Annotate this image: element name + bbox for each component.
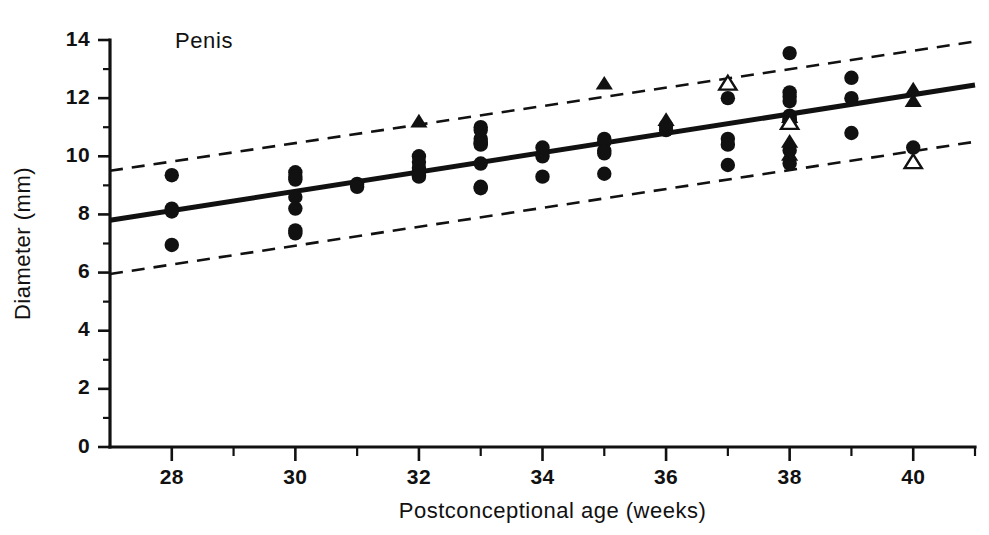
y-tick-label: 12 <box>66 85 90 108</box>
data-point-circle <box>474 181 488 195</box>
data-point-circle <box>721 158 735 172</box>
y-tick-label: 2 <box>78 375 90 398</box>
y-tick-label: 14 <box>66 27 90 50</box>
data-point-circle <box>721 91 735 105</box>
x-tick-label: 32 <box>407 465 431 488</box>
x-tick-label: 38 <box>778 465 802 488</box>
data-point-circle <box>782 46 796 60</box>
scatter-chart: 02468101214 28303234363840 Postconceptio… <box>0 0 989 535</box>
figure-root: 02468101214 28303234363840 Postconceptio… <box>0 0 989 535</box>
y-tick-label: 6 <box>78 259 90 282</box>
y-axis-title: Diameter (mm) <box>10 167 35 320</box>
y-tick-label: 4 <box>78 317 90 340</box>
chart-background <box>0 0 989 535</box>
x-tick-label: 36 <box>654 465 678 488</box>
data-point-circle <box>721 137 735 151</box>
data-point-circle <box>350 180 364 194</box>
data-point-circle <box>412 169 426 183</box>
data-point-circle <box>288 172 302 186</box>
data-point-circle <box>535 169 549 183</box>
data-point-circle <box>288 226 302 240</box>
panel-title: Penis <box>175 28 233 53</box>
data-point-circle <box>597 146 611 160</box>
x-tick-label: 34 <box>530 465 554 488</box>
y-tick-label: 8 <box>78 201 90 224</box>
data-point-circle <box>288 201 302 215</box>
data-point-circle <box>165 204 179 218</box>
data-point-circle <box>844 71 858 85</box>
data-point-circle <box>165 238 179 252</box>
x-tick-label: 30 <box>283 465 307 488</box>
x-axis-title: Postconceptional age (weeks) <box>399 498 707 523</box>
data-point-circle <box>474 137 488 151</box>
data-point-circle <box>535 149 549 163</box>
data-point-circle <box>165 168 179 182</box>
x-tick-label: 40 <box>901 465 925 488</box>
data-point-circle <box>474 156 488 170</box>
y-tick-label: 0 <box>78 434 90 457</box>
data-point-circle <box>844 91 858 105</box>
data-point-circle <box>782 94 796 108</box>
x-tick-label: 28 <box>160 465 184 488</box>
data-point-circle <box>597 167 611 181</box>
y-tick-label: 10 <box>66 143 90 166</box>
data-point-circle <box>844 126 858 140</box>
